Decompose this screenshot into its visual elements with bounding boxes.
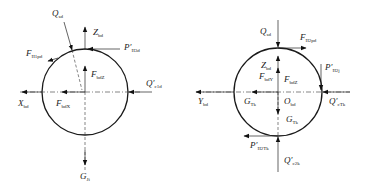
- label-g-tk-down: GTk: [286, 114, 299, 125]
- left-body-diagram: Qsd Zbd P′II3d FII1pd FbdZ Q′c1d Xbd Fbd…: [17, 8, 162, 182]
- force-q-sd-arrow: [64, 22, 72, 50]
- label-y-bd: Ybd: [198, 96, 209, 107]
- label-f-bdy: FbdY: [258, 71, 274, 82]
- label-p-ii3d: P′II3d: [123, 42, 140, 53]
- label-x-bd: Xbd: [17, 98, 29, 109]
- force-diagram: Qsd Zbd P′II3d FII1pd FbdZ Q′c1d Xbd Fbd…: [0, 0, 368, 192]
- label-o-bd: Obd: [284, 96, 296, 107]
- label-p-ii2j: P′II2j: [324, 62, 340, 73]
- label-f-bdz: FbdZ: [283, 74, 298, 85]
- label-q-c1d: Q′c1d: [146, 78, 162, 89]
- label-q-ctk: Q′cTk: [329, 96, 346, 107]
- label-g-tk-left: GTk: [244, 96, 257, 107]
- label-q-sd: Qsd: [260, 26, 271, 37]
- label-f-ii1pd: FII1pd: [25, 48, 43, 59]
- right-body-diagram: Qsd FII2pd Zbd FbdY FbdZ P′II2j Ybd GTk …: [196, 20, 350, 172]
- label-q-sd: Qsd: [52, 8, 63, 19]
- label-p-ii2tk: P′II2Tk: [249, 140, 269, 151]
- label-z-bd: Zbd: [93, 27, 104, 38]
- label-z-bd: Zbd: [261, 60, 272, 71]
- label-f-bdx: FbdX: [55, 98, 71, 109]
- label-g: GJi: [80, 171, 90, 182]
- label-f-ii2pd: FII2pd: [299, 32, 317, 43]
- label-q-c2k: Q′c2k: [284, 155, 300, 166]
- label-f-bdz: FbdZ: [90, 69, 105, 80]
